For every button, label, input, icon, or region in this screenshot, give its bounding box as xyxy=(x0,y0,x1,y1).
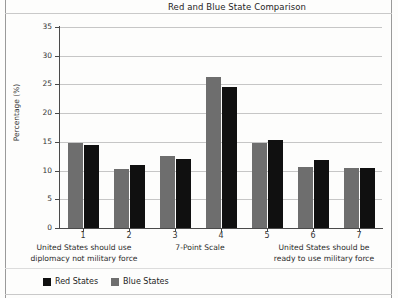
bar-red-states[interactable] xyxy=(130,165,145,228)
x-tick-label: 2 xyxy=(109,231,149,240)
bar-group xyxy=(298,27,329,228)
bar-red-states[interactable] xyxy=(314,160,329,228)
y-axis-label: Percentage (%) xyxy=(12,53,21,173)
caption-right: United States should be ready to use mil… xyxy=(254,243,394,264)
legend-item[interactable]: Red States xyxy=(43,277,98,286)
y-tick-label: 35 xyxy=(24,22,52,31)
bar-blue-states[interactable] xyxy=(206,77,221,228)
bar-group xyxy=(344,27,375,228)
page-border-bottom xyxy=(5,294,392,295)
x-tick-label: 6 xyxy=(293,231,333,240)
bar-group xyxy=(160,27,191,228)
x-tick-label: 5 xyxy=(247,231,287,240)
caption-right-line1: United States should be xyxy=(279,243,370,252)
y-tick-label: 5 xyxy=(24,194,52,203)
x-tick-mark xyxy=(267,228,268,232)
x-tick-label: 4 xyxy=(201,231,241,240)
bar-blue-states[interactable] xyxy=(298,167,313,228)
x-tick-mark xyxy=(175,228,176,232)
bar-group xyxy=(68,27,99,228)
legend-item[interactable]: Blue States xyxy=(111,277,169,286)
chart-title: Red and Blue State Comparison xyxy=(0,2,398,12)
page-border-left xyxy=(5,0,6,298)
x-tick-mark xyxy=(359,228,360,232)
legend-swatch-icon xyxy=(111,278,119,286)
bar-group xyxy=(206,27,237,228)
bar-red-states[interactable] xyxy=(84,145,99,228)
x-tick-label: 3 xyxy=(155,231,195,240)
page-border-top xyxy=(5,13,392,14)
legend-swatch-icon xyxy=(43,278,51,286)
caption-left-line2: diplomacy not military force xyxy=(31,254,138,263)
bar-group xyxy=(114,27,145,228)
legend-divider xyxy=(5,268,392,269)
bar-blue-states[interactable] xyxy=(344,168,359,228)
y-tick-label: 0 xyxy=(24,223,52,232)
bar-groups xyxy=(60,27,382,228)
legend-label: Red States xyxy=(55,277,98,286)
bar-red-states[interactable] xyxy=(222,87,237,228)
bar-red-states[interactable] xyxy=(176,159,191,228)
bar-red-states[interactable] xyxy=(360,168,375,228)
y-tick-label: 15 xyxy=(24,137,52,146)
caption-middle: 7-Point Scale xyxy=(150,243,250,254)
legend-label: Blue States xyxy=(123,277,169,286)
y-tick-label: 10 xyxy=(24,166,52,175)
caption-left: United States should use diplomacy not m… xyxy=(14,243,154,264)
y-tick-label: 20 xyxy=(24,108,52,117)
bar-group xyxy=(252,27,283,228)
chart-figure: Red and Blue State Comparison Percentage… xyxy=(0,0,398,298)
bar-blue-states[interactable] xyxy=(68,143,83,228)
y-tick-label: 30 xyxy=(24,51,52,60)
bar-red-states[interactable] xyxy=(268,140,283,228)
chart-title-text: Red and Blue State Comparison xyxy=(168,2,306,12)
x-tick-mark xyxy=(129,228,130,232)
y-tick-label: 25 xyxy=(24,79,52,88)
x-tick-label: 1 xyxy=(63,231,103,240)
bar-blue-states[interactable] xyxy=(160,156,175,228)
x-tick-mark xyxy=(83,228,84,232)
chart-legend: Red StatesBlue States xyxy=(43,277,169,286)
caption-right-line2: ready to use military force xyxy=(274,254,374,263)
x-tick-mark xyxy=(313,228,314,232)
x-tick-label: 7 xyxy=(339,231,379,240)
bar-blue-states[interactable] xyxy=(114,169,129,228)
x-tick-mark xyxy=(221,228,222,232)
bar-blue-states[interactable] xyxy=(252,143,267,228)
caption-left-line1: United States should use xyxy=(37,243,132,252)
caption-middle-text: 7-Point Scale xyxy=(175,243,224,252)
